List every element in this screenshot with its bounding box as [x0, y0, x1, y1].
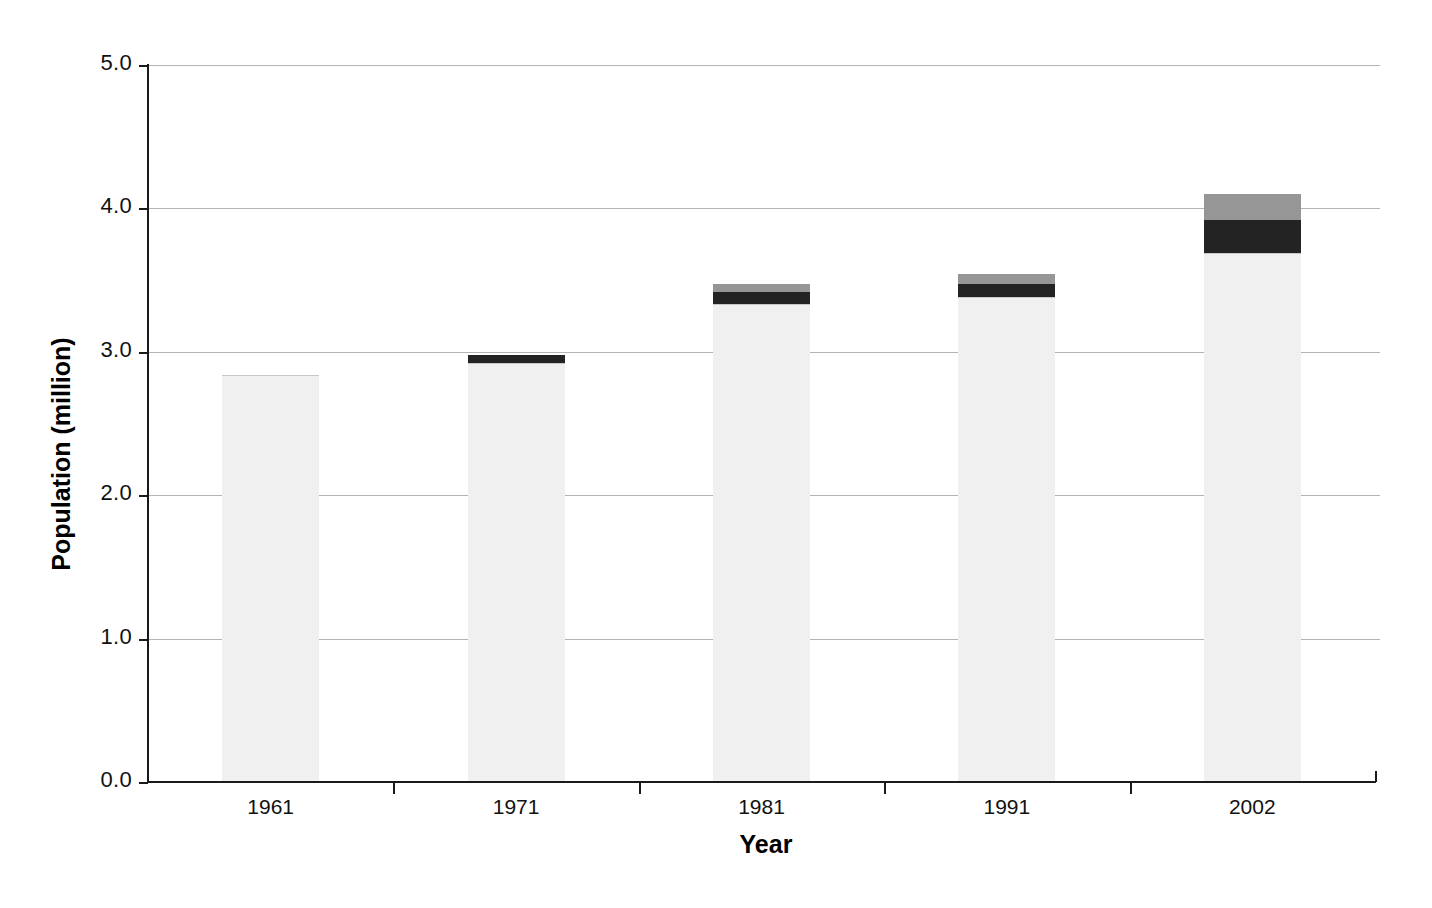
bar-segment[interactable]	[713, 304, 810, 782]
y-axis-title-text: Population (million)	[36, 337, 86, 570]
gridline	[148, 65, 1380, 66]
x-axis-tick	[884, 783, 886, 794]
y-axis-line	[147, 64, 149, 783]
x-axis-endcap	[1375, 771, 1377, 782]
x-axis-tick	[393, 783, 395, 794]
x-axis-tick-label: 1961	[148, 795, 393, 819]
y-axis-tick	[139, 639, 148, 641]
y-axis-tick-label: 1.0	[101, 624, 132, 650]
x-axis-title: Year	[0, 830, 1432, 859]
y-axis-tick-label: 5.0	[101, 50, 132, 76]
x-axis-tick-label: 2002	[1130, 795, 1375, 819]
bar-segment[interactable]	[468, 355, 565, 364]
y-axis-title: Population (million)	[48, 0, 98, 908]
bar-segment[interactable]	[1204, 220, 1301, 253]
bar-segment[interactable]	[958, 297, 1055, 782]
x-axis-tick	[639, 783, 641, 794]
bar-segment[interactable]	[713, 284, 810, 291]
y-axis-tick	[139, 352, 148, 354]
x-axis-title-text: Year	[740, 830, 793, 859]
x-axis-tick-label: 1971	[393, 795, 638, 819]
x-axis-tick-label: 1981	[639, 795, 884, 819]
y-axis-tick	[139, 65, 148, 67]
plot-area	[148, 65, 1375, 782]
x-axis-line	[147, 781, 1376, 783]
bar-segment[interactable]	[958, 284, 1055, 297]
y-axis-tick	[139, 495, 148, 497]
y-axis-tick	[139, 208, 148, 210]
y-axis-tick-label: 0.0	[101, 767, 132, 793]
bar-segment[interactable]	[713, 292, 810, 305]
bar-segment[interactable]	[468, 363, 565, 782]
x-axis-tick	[1130, 783, 1132, 794]
bar-segment[interactable]	[958, 274, 1055, 284]
gridline	[148, 208, 1380, 209]
y-axis-tick-label: 4.0	[101, 193, 132, 219]
bar-segment[interactable]	[1204, 194, 1301, 220]
y-axis-tick-label: 3.0	[101, 337, 132, 363]
y-axis-tick-label: 2.0	[101, 480, 132, 506]
x-axis-tick-label: 1991	[884, 795, 1129, 819]
population-bar-chart: 0.01.02.03.04.05.0 19611971198119912002 …	[0, 0, 1432, 908]
bar-segment[interactable]	[222, 375, 319, 782]
bar-segment[interactable]	[1204, 253, 1301, 782]
y-axis-tick	[139, 782, 148, 784]
